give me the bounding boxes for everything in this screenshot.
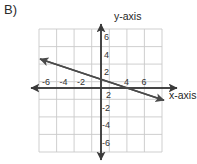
y-axis-label: y-axis [114, 10, 141, 22]
y-tick-6: 6 [104, 32, 109, 42]
y-tick-2: 2 [104, 67, 109, 77]
coordinate-plane: y-axis x-axis -6 -4 -2 2 4 6 6 4 2 -2 -4… [0, 0, 197, 164]
y-tick-minus-6: -6 [102, 138, 110, 148]
x-axis-label: x-axis [169, 89, 196, 101]
x-tick-4: 4 [124, 77, 129, 87]
x-tick-minus-4: -4 [60, 77, 68, 87]
x-tick-minus-6: -6 [42, 77, 50, 87]
x-tick-minus-2: -2 [77, 77, 85, 87]
y-tick-4: 4 [104, 50, 109, 60]
y-tick-minus-4: -4 [102, 120, 110, 130]
y-tick-minus-2: -2 [102, 103, 110, 113]
figure-container: B) [0, 0, 197, 164]
x-tick-6: 6 [142, 77, 147, 87]
x-tick-2: 2 [106, 90, 111, 100]
